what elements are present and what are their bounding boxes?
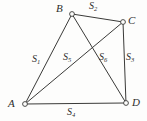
edge-BC: [72, 14, 123, 22]
segment-label-s6: S6: [99, 52, 107, 62]
vertex-marker-A: [23, 102, 28, 107]
segment-label-s5-sub: 5: [68, 56, 71, 63]
edge-AD: [25, 103, 126, 104]
vertex-marker-D: [124, 101, 129, 106]
segment-label-s6-sub: 6: [104, 56, 107, 63]
vertex-label-A: A: [8, 98, 15, 109]
segment-label-s5: S5: [63, 52, 71, 62]
segment-label-s3-sub: 3: [131, 56, 134, 63]
segment-label-s1: S1: [32, 54, 40, 64]
segment-label-s4: S4: [67, 107, 75, 117]
vertex-marker-B: [70, 12, 75, 17]
vertex-label-C: C: [128, 15, 135, 26]
edge-CD: [123, 22, 126, 103]
vertex-marker-C: [121, 20, 126, 25]
vertex-label-B: B: [56, 3, 63, 14]
figure-canvas: [0, 0, 147, 121]
segment-label-s3: S3: [126, 52, 134, 62]
geometry-figure: A B C D S1 S2 S3 S4 S5 S6: [0, 0, 147, 121]
segment-label-s1-sub: 1: [37, 58, 40, 65]
segment-label-s2: S2: [89, 1, 97, 11]
vertex-label-D: D: [132, 97, 140, 108]
segment-label-s2-sub: 2: [94, 5, 97, 12]
segment-label-s4-sub: 4: [72, 111, 75, 118]
